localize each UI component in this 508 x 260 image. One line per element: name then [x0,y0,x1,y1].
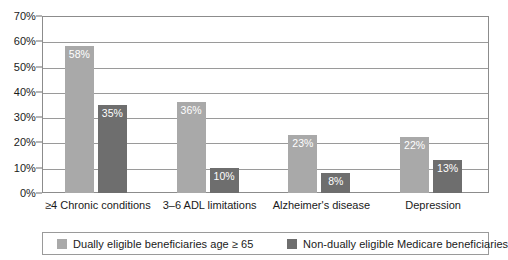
gridline [43,68,488,69]
gridlines [43,17,488,192]
gridline [43,42,488,43]
x-axis-label: 3–6 ADL limitations [163,199,257,211]
gridline [43,169,488,170]
gridline [43,118,488,119]
x-axis-label: ≥4 Chronic conditions [45,199,151,211]
y-tick-label: 0% [20,187,36,199]
y-tick-label: 20% [14,136,36,148]
y-tick-label: 70% [14,10,36,22]
x-axis-label: Depression [405,199,461,211]
y-tick-label: 10% [14,162,36,174]
y-tick-label: 50% [14,61,36,73]
gridline [43,143,488,144]
legend: Dually eligible beneficiaries age ≥ 65 N… [42,232,489,255]
y-tick-label: 60% [14,35,36,47]
legend-swatch-icon [287,239,297,249]
legend-entry-dually-eligible: Dually eligible beneficiaries age ≥ 65 [57,238,253,250]
legend-label: Dually eligible beneficiaries age ≥ 65 [73,238,253,250]
x-axis-category-labels: ≥4 Chronic conditions3–6 ADL limitations… [42,199,489,217]
legend-swatch-icon [57,239,67,249]
legend-entry-non-dually-eligible: Non-dually eligible Medicare beneficiari… [287,238,508,250]
x-axis-label: Alzheimer's disease [273,199,370,211]
plot-area [42,16,489,193]
gridline [43,93,488,94]
legend-label: Non-dually eligible Medicare beneficiari… [303,238,508,250]
y-axis: 0%10%20%30%40%50%60%70% [0,16,36,193]
y-tick-label: 30% [14,111,36,123]
y-tick-label: 40% [14,86,36,98]
